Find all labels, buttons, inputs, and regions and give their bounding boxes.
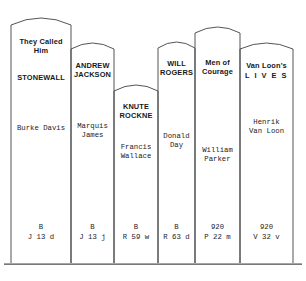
spine-call-number-men-of-courage: 920 P 22 m	[195, 223, 240, 242]
spine-title-knute-rockne: KNUTE ROCKNE	[114, 102, 158, 120]
spine-author-andrew-jackson: Marquis James	[71, 122, 114, 141]
book-spine-stonewall[interactable]: They Called Him STONEWALL Burke Davis B …	[11, 20, 71, 263]
spine-author-men-of-courage: William Parker	[195, 146, 240, 165]
spine-author-will-rogers: Donald Day	[158, 132, 195, 151]
book-spine-will-rogers[interactable]: WILL ROGERS Donald Day B R 63 d	[158, 43, 195, 263]
spine-call-number-van-loons-lives: 920 V 32 v	[240, 223, 293, 242]
spine-subtitle-van-loons-lives: L I V E S	[240, 71, 293, 80]
spine-call-number-will-rogers: B R 63 d	[158, 223, 195, 242]
book-spine-andrew-jackson[interactable]: ANDREW JACKSON Marquis James B J 13 j	[71, 44, 114, 263]
book-spine-men-of-courage[interactable]: Men of Courage William Parker 920 P 22 m	[195, 28, 240, 263]
spine-title-van-loons-lives: Van Loon's	[240, 61, 293, 70]
book-spines-diagram: They Called Him STONEWALL Burke Davis B …	[0, 0, 306, 281]
spine-author-stonewall: Burke Davis	[11, 124, 71, 133]
spine-author-knute-rockne: Francis Wallace	[114, 143, 158, 162]
spine-author-van-loons-lives: Henrik Van Loon	[240, 118, 293, 137]
spine-title-stonewall: They Called Him	[11, 37, 71, 55]
spine-title-andrew-jackson: ANDREW JACKSON	[71, 61, 114, 79]
book-spine-van-loons-lives[interactable]: Van Loon's L I V E S Henrik Van Loon 920…	[240, 44, 293, 263]
book-spine-knute-rockne[interactable]: KNUTE ROCKNE Francis Wallace B R 59 w	[114, 86, 158, 263]
spine-title-men-of-courage: Men of Courage	[195, 58, 240, 76]
spine-call-number-stonewall: B J 13 d	[11, 223, 71, 242]
spine-title-will-rogers: WILL ROGERS	[158, 59, 195, 77]
spine-call-number-knute-rockne: B R 59 w	[114, 223, 158, 242]
spine-subtitle-stonewall: STONEWALL	[11, 73, 71, 82]
spine-call-number-andrew-jackson: B J 13 j	[71, 223, 114, 242]
